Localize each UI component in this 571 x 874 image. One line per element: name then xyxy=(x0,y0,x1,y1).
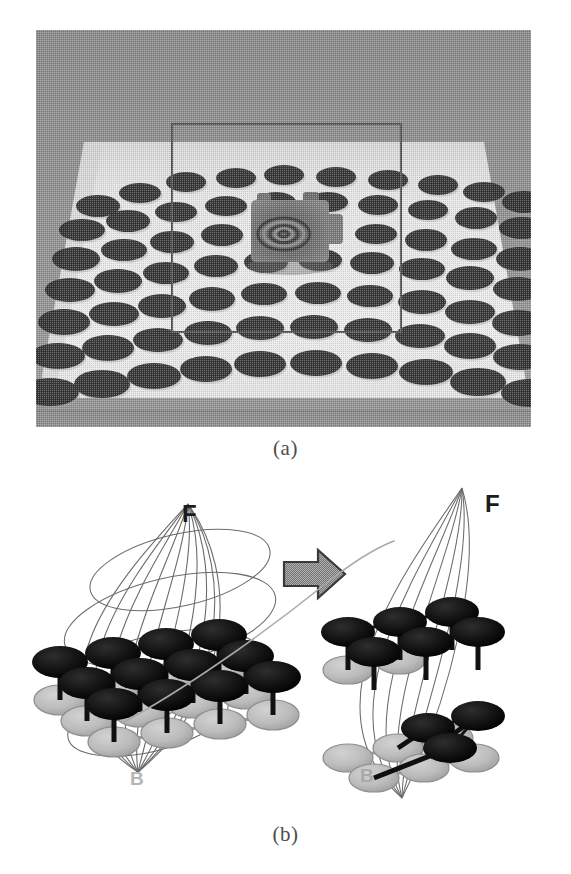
halftone-overlay xyxy=(36,30,531,427)
dark-node xyxy=(399,627,453,657)
transformation-arrow-icon xyxy=(284,550,345,598)
left-sphere-structure: F B xyxy=(32,500,301,789)
dark-node xyxy=(86,688,142,720)
figure-root: (a) xyxy=(0,0,571,874)
latitude-ring xyxy=(82,514,277,626)
label-b-left: B xyxy=(130,768,144,789)
label-f-left: F xyxy=(182,500,197,527)
panel-a-photograph xyxy=(36,30,531,427)
dark-node xyxy=(451,617,505,647)
photograph-image xyxy=(36,30,531,427)
caption-b: (b) xyxy=(0,822,571,847)
dark-node xyxy=(451,701,505,731)
panel-b-diagram: F B F B xyxy=(30,480,550,815)
dark-node xyxy=(423,733,477,763)
dark-node xyxy=(347,637,401,667)
label-f-right: F xyxy=(485,490,500,517)
diagram-image: F B F B xyxy=(30,480,550,815)
label-b-right: B xyxy=(360,765,374,786)
dark-node xyxy=(245,661,301,693)
caption-a: (a) xyxy=(0,436,571,461)
